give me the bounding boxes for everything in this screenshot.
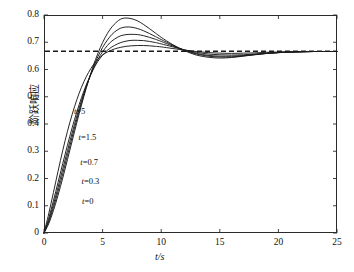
x-tick-label: 10	[146, 238, 176, 248]
y-tick-label: 0.3	[8, 146, 39, 156]
series-annotation: t=5	[74, 107, 85, 116]
series-annotation: t=1.5	[79, 133, 97, 142]
x-tick-label: 0	[29, 238, 59, 248]
x-axis-title-text: t/s	[155, 251, 164, 262]
y-tick-label: 0.8	[8, 10, 39, 20]
y-tick-label: 0.1	[8, 201, 39, 211]
x-tick-label: 25	[322, 238, 352, 248]
x-tick-label: 15	[205, 238, 235, 248]
x-axis-title: t/s	[155, 251, 164, 262]
y-tick-label: 0	[8, 228, 39, 238]
x-tick-label: 5	[88, 238, 118, 248]
series-annotation: t=0	[82, 197, 93, 206]
y-tick-label: 0.7	[8, 37, 39, 47]
series-annotation: t=0.3	[82, 177, 100, 186]
x-tick-label: 20	[263, 238, 293, 248]
figure-canvas: 0510152025 00.10.20.30.40.50.60.70.8 t=5…	[0, 0, 354, 272]
y-axis-title: 阶跃响应	[26, 69, 41, 139]
chart-svg	[0, 0, 354, 272]
y-tick-label: 0.2	[8, 174, 39, 184]
series-annotation: t=0.7	[80, 158, 98, 167]
